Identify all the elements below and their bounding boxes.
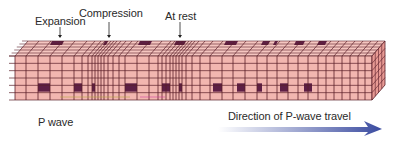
label-direction-of-travel: Direction of P-wave travel [228, 110, 351, 122]
label-p-wave: P wave [38, 116, 73, 128]
label-compression: Compression [79, 7, 143, 19]
block-front-face [9, 56, 372, 100]
label-at-rest: At rest [165, 10, 196, 22]
label-expansion: Expansion [35, 15, 85, 27]
block-top-face [9, 41, 385, 56]
p-wave-diagram: Expansion Compression At rest P wave Dir… [0, 0, 408, 151]
direction-arrow-icon [218, 121, 382, 136]
